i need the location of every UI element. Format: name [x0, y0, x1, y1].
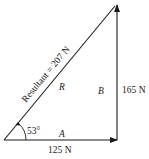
- angle-arc-arrow-icon: [16, 122, 21, 126]
- vector-a-magnitude: 125 N: [48, 145, 72, 155]
- resultant-label: Resultant = 207 N: [20, 44, 72, 104]
- angle-arc: [18, 123, 26, 140]
- vector-b-magnitude: 165 N: [122, 85, 146, 95]
- resultant-arrow: [4, 6, 115, 140]
- vector-b-symbol: B: [98, 86, 104, 96]
- angle-label: 53°: [27, 126, 41, 136]
- vector-triangle-diagram: Resultant = 207 N R B 165 N 53° A 125 N: [0, 0, 149, 159]
- vector-r-symbol: R: [58, 82, 65, 92]
- vector-a-symbol: A: [58, 129, 65, 139]
